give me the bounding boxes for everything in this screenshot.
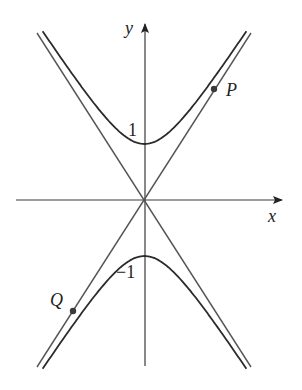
hyperbola-diagram: y x 1 −1 P Q — [0, 0, 302, 390]
point-q-label: Q — [50, 291, 63, 309]
point-p-label: P — [226, 81, 237, 99]
point-q — [70, 308, 76, 314]
tick-label-1: 1 — [128, 121, 137, 139]
x-axis-label: x — [268, 207, 276, 225]
y-axis-label: y — [125, 19, 133, 37]
point-p — [211, 86, 217, 92]
diagram-canvas — [0, 0, 302, 390]
tick-label-neg-1: −1 — [116, 263, 135, 281]
